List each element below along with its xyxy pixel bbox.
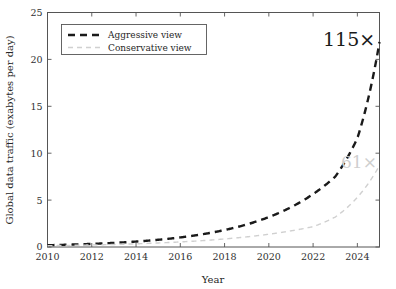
chart-legend[interactable]: Aggressive viewConservative view xyxy=(62,25,207,55)
x-axis-title: Year xyxy=(201,274,225,285)
y-tick-label: 5 xyxy=(36,195,42,206)
legend-item-label: Conservative view xyxy=(108,43,192,53)
y-tick-label: 20 xyxy=(30,54,42,65)
x-tick-label: 2024 xyxy=(345,251,369,262)
chart-annotation-label: 115× xyxy=(323,28,375,50)
x-tick-label: 2014 xyxy=(124,251,148,262)
x-tick-label: 2022 xyxy=(301,251,325,262)
y-tick-label: 25 xyxy=(30,7,42,18)
y-axis-title: Global data traffic (exabytes per day) xyxy=(4,35,15,224)
y-tick-label: 10 xyxy=(30,148,42,159)
x-tick-label: 2012 xyxy=(80,251,104,262)
x-tick-label: 2010 xyxy=(35,251,59,262)
y-tick-label: 15 xyxy=(30,101,42,112)
chart-canvas: 0510152025 20102012201420162018202020222… xyxy=(0,0,396,289)
chart-annotation-label: 61× xyxy=(341,152,377,172)
x-tick-label: 2018 xyxy=(212,251,236,262)
legend-item-label: Aggressive view xyxy=(107,30,182,40)
chart-figure: 0510152025 20102012201420162018202020222… xyxy=(0,0,396,289)
x-tick-label: 2020 xyxy=(257,251,281,262)
x-tick-label: 2016 xyxy=(168,251,192,262)
